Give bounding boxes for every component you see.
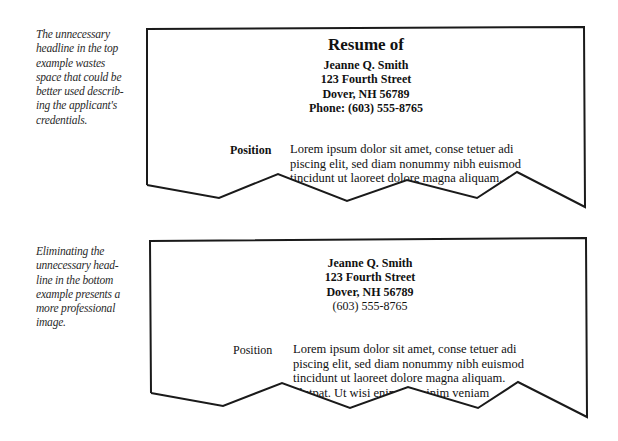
caption-line: The unnecessary xyxy=(36,27,136,41)
bottom-example-header: Jeanne Q. Smith 123 Fourth Street Dover,… xyxy=(150,256,590,313)
caption-line: line in the bottom xyxy=(36,273,136,287)
caption-line: Eliminating the xyxy=(36,244,136,258)
contact-city: Dover, NH 56789 xyxy=(146,87,586,101)
caption-line: example wastes xyxy=(36,56,136,70)
bottom-example-body: Lorem ipsum dolor sit amet, conse tetuer… xyxy=(293,342,593,417)
caption-line: image. xyxy=(36,315,136,329)
caption-line: more professional xyxy=(36,301,136,315)
contact-street: 123 Fourth Street xyxy=(146,72,586,86)
caption-line: ing the applicant's xyxy=(36,98,136,112)
body-line: tincidunt ut laoreet dolore magna aliqua… xyxy=(290,171,590,186)
body-line: piscing elit, sed diam nonummy nibh euis… xyxy=(290,157,590,172)
body-line: tincidunt ut laoreet dolore magna aliqua… xyxy=(293,371,593,386)
caption-line: example presents a xyxy=(36,287,136,301)
body-line: Lorem ipsum dolor sit amet, conse tetuer… xyxy=(293,342,593,357)
caption-line: better used describ- xyxy=(36,84,136,98)
body-line: olutpat. Ut wisi enim ad minim veniam xyxy=(293,386,593,401)
caption-top: The unnecessary headline in the top exam… xyxy=(36,27,136,127)
body-line: piscing elit, sed diam nonummy nibh euis… xyxy=(293,357,593,372)
resume-headline: Resume of xyxy=(146,35,586,55)
contact-name: Jeanne Q. Smith xyxy=(150,256,590,270)
contact-phone: Phone: (603) 555-8765 xyxy=(146,101,586,115)
caption-bottom: Eliminating the unnecessary head- line i… xyxy=(36,244,136,330)
contact-city: Dover, NH 56789 xyxy=(150,285,590,299)
caption-line: unnecessary head- xyxy=(36,258,136,272)
contact-street: 123 Fourth Street xyxy=(150,270,590,284)
section-label-position: Position xyxy=(233,343,272,358)
body-line: Lorem ipsum dolor sit amet, conse tetuer… xyxy=(290,142,590,157)
contact-phone: (603) 555-8765 xyxy=(150,299,590,313)
section-label-position: Position xyxy=(230,143,271,158)
caption-line: space that could be xyxy=(36,70,136,84)
caption-line: headline in the top xyxy=(36,41,136,55)
top-example-body: Lorem ipsum dolor sit amet, conse tetuer… xyxy=(290,142,590,202)
caption-line: credentials. xyxy=(36,113,136,127)
contact-name: Jeanne Q. Smith xyxy=(146,58,586,72)
top-example-header: Resume of Jeanne Q. Smith 123 Fourth Str… xyxy=(146,35,586,115)
